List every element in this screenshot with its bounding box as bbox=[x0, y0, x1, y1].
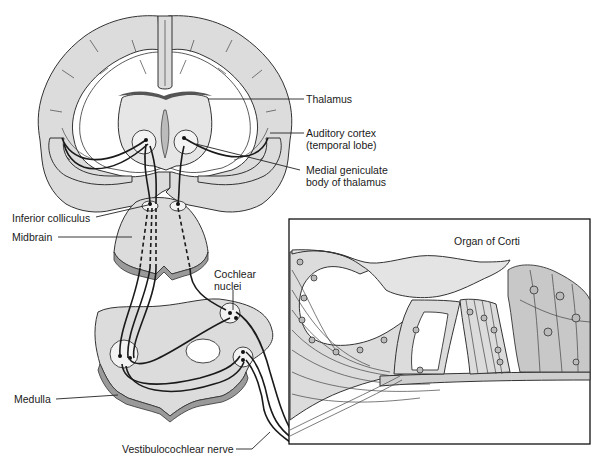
auditory-pathway-illustration bbox=[0, 0, 598, 457]
organ-of-corti-inset bbox=[289, 219, 590, 444]
label-medial-geniculate-line1: Medial geniculate bbox=[306, 164, 388, 176]
label-auditory-cortex: Auditory cortex (temporal lobe) bbox=[306, 127, 377, 151]
label-medial-geniculate: Medial geniculate body of thalamus bbox=[306, 164, 388, 188]
right-medial-geniculate bbox=[174, 130, 198, 154]
label-inferior-colliculus: Inferior colliculus bbox=[12, 212, 90, 224]
label-thalamus: Thalamus bbox=[306, 93, 352, 105]
label-medulla: Medulla bbox=[14, 393, 51, 405]
brain-coronal-section bbox=[38, 16, 292, 212]
label-vestibulocochlear-nerve: Vestibulocochlear nerve bbox=[122, 443, 234, 455]
label-cochlear-nuclei: Cochlear nuclei bbox=[214, 268, 256, 292]
medulla-hollow bbox=[186, 339, 220, 363]
label-auditory-cortex-line2: (temporal lobe) bbox=[306, 139, 377, 151]
label-medial-geniculate-line2: body of thalamus bbox=[306, 176, 388, 188]
label-cochlear-nuclei-line2: nuclei bbox=[214, 280, 256, 292]
label-organ-of-corti: Organ of Corti bbox=[454, 235, 520, 247]
label-cochlear-nuclei-line1: Cochlear bbox=[214, 268, 256, 280]
label-auditory-cortex-line1: Auditory cortex bbox=[306, 127, 377, 139]
label-midbrain: Midbrain bbox=[12, 231, 52, 243]
midbrain-body bbox=[114, 198, 208, 275]
